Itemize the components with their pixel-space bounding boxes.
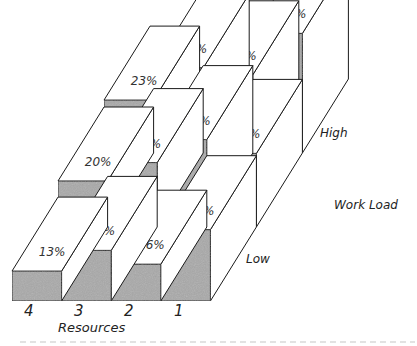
value-label: 20% — [85, 155, 112, 169]
x-tick-4: 4 — [24, 302, 34, 320]
depth-label-high: High — [320, 126, 348, 140]
bar-front-face — [12, 271, 62, 301]
x-axis-title: Resources — [58, 320, 125, 335]
value-label: 13% — [39, 245, 66, 259]
x-tick-2: 2 — [124, 302, 134, 320]
x-tick-3: 3 — [74, 302, 84, 320]
caption-residue — [20, 341, 415, 343]
depth-label-low: Low — [246, 252, 270, 266]
bar-chart-3d: 52%34%37%23%32%38%28%20%31%16%22%13% — [0, 0, 417, 346]
x-tick-1: 1 — [174, 302, 184, 320]
bars-group: 52%34%37%23%32%38%28%20%31%16%22%13% — [12, 0, 348, 301]
value-label: 23% — [131, 74, 158, 88]
work-load-axis-title: Work Load — [334, 198, 398, 212]
